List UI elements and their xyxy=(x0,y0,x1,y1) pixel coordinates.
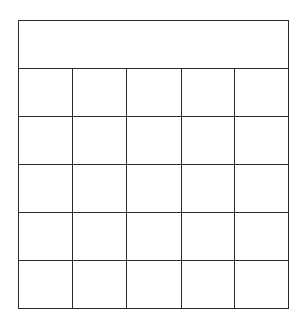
table-cell xyxy=(19,213,73,261)
table-cell xyxy=(127,117,182,165)
table-cell xyxy=(73,261,127,309)
table-cell xyxy=(19,165,73,213)
table-cell xyxy=(127,261,182,309)
grid-table xyxy=(18,20,289,309)
table-cell xyxy=(235,117,289,165)
table-cell xyxy=(182,117,235,165)
table-cell xyxy=(73,117,127,165)
table-cell xyxy=(182,261,235,309)
table-row xyxy=(19,213,289,261)
table-row xyxy=(19,261,289,309)
header-row xyxy=(19,21,289,69)
empty-table-template xyxy=(18,20,289,309)
table-cell xyxy=(127,165,182,213)
table-row xyxy=(19,165,289,213)
header-cell xyxy=(19,21,289,69)
table-cell xyxy=(19,261,73,309)
table-cell xyxy=(19,69,73,117)
table-cell xyxy=(235,261,289,309)
table-row xyxy=(19,117,289,165)
table-cell xyxy=(127,213,182,261)
table-cell xyxy=(73,213,127,261)
table-cell xyxy=(235,213,289,261)
table-cell xyxy=(19,117,73,165)
table-cell xyxy=(73,165,127,213)
table-cell xyxy=(73,69,127,117)
table-row xyxy=(19,69,289,117)
table-cell xyxy=(182,213,235,261)
table-cell xyxy=(182,69,235,117)
table-cell xyxy=(127,69,182,117)
table-cell xyxy=(235,165,289,213)
table-cell xyxy=(182,165,235,213)
table-cell xyxy=(235,69,289,117)
